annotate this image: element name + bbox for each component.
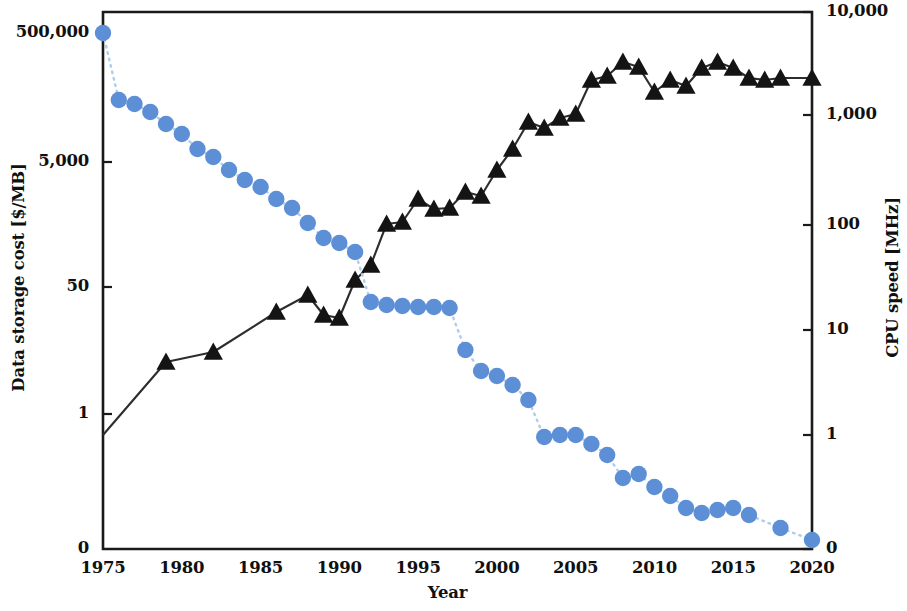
- cpu-speed-data-point: [661, 70, 680, 87]
- storage-cost-data-point: [615, 470, 631, 486]
- cpu-speed-data-point: [535, 118, 554, 135]
- storage-cost-data-point: [631, 466, 647, 482]
- cpu-speed-data-point: [724, 58, 743, 75]
- storage-cost-data-point: [189, 141, 205, 157]
- storage-cost-data-point: [568, 427, 584, 443]
- cpu-speed-data-point: [298, 285, 317, 302]
- cpu-speed-data-point: [204, 342, 223, 359]
- storage-cost-data-point: [520, 392, 536, 408]
- storage-cost-data-point: [237, 172, 253, 188]
- cpu-speed-data-point: [566, 104, 585, 121]
- cpu-speed-data-point: [629, 57, 648, 74]
- cpu-speed-line: [103, 62, 812, 435]
- storage-cost-data-point: [363, 294, 379, 310]
- storage-cost-data-point: [772, 520, 788, 536]
- storage-cost-data-point: [394, 298, 410, 314]
- cpu-speed-data-point: [361, 255, 380, 272]
- storage-cost-data-point: [678, 500, 694, 516]
- storage-cost-data-point: [315, 230, 331, 246]
- storage-cost-data-point: [410, 299, 426, 315]
- storage-cost-data-point: [552, 427, 568, 443]
- storage-cost-data-point: [489, 368, 505, 384]
- storage-cost-data-point: [378, 297, 394, 313]
- cpu-speed-data-point: [613, 52, 632, 69]
- storage-cost-data-point: [300, 215, 316, 231]
- storage-cost-data-point: [331, 235, 347, 251]
- storage-cost-data-point: [583, 436, 599, 452]
- cpu-speed-data-point: [645, 82, 664, 99]
- storage-cost-data-point: [473, 363, 489, 379]
- cpu-speed-data-point: [708, 52, 727, 69]
- cpu-speed-data-point: [456, 182, 475, 199]
- storage-cost-data-point: [646, 479, 662, 495]
- storage-cost-data-point: [709, 502, 725, 518]
- storage-cost-data-point: [284, 200, 300, 216]
- storage-cost-data-point: [694, 505, 710, 521]
- storage-cost-data-point: [504, 377, 520, 393]
- storage-cost-data-point: [804, 532, 820, 548]
- storage-cost-data-point: [158, 116, 174, 132]
- cpu-speed-data-point: [739, 68, 758, 85]
- cpu-speed-data-point: [393, 212, 412, 229]
- storage-cost-data-point: [741, 507, 757, 523]
- storage-cost-data-point: [174, 126, 190, 142]
- storage-cost-data-point: [725, 500, 741, 516]
- cpu-speed-data-point: [692, 58, 711, 75]
- storage-cost-data-point: [441, 300, 457, 316]
- storage-cost-data-point: [95, 25, 111, 41]
- storage-cost-data-point: [126, 96, 142, 112]
- storage-cost-data-point: [205, 149, 221, 165]
- storage-cost-data-point: [347, 244, 363, 260]
- cpu-speed-data-point: [267, 302, 286, 319]
- storage-cost-data-point: [599, 447, 615, 463]
- storage-cost-data-point: [221, 162, 237, 178]
- storage-cost-data-point: [111, 92, 127, 108]
- storage-cost-data-point: [662, 488, 678, 504]
- storage-cost-data-point: [536, 429, 552, 445]
- cpu-speed-data-point: [409, 189, 428, 206]
- cpu-speed-data-point: [503, 139, 522, 156]
- storage-cost-data-point: [142, 104, 158, 120]
- cpu-speed-data-point: [519, 112, 538, 129]
- storage-cost-data-point: [426, 299, 442, 315]
- storage-cost-data-point: [252, 179, 268, 195]
- storage-cost-data-point: [268, 191, 284, 207]
- storage-cost-data-point: [457, 342, 473, 358]
- cpu-speed-data-point: [487, 160, 506, 177]
- storage-cost-trend-line: [103, 33, 812, 540]
- axis-frame: [103, 12, 812, 549]
